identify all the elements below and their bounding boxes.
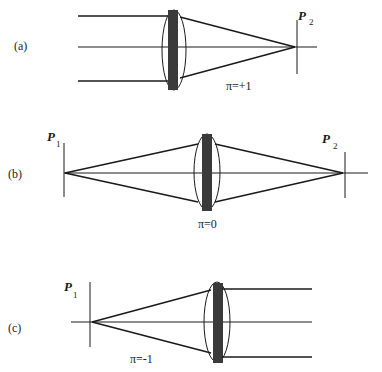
panel-label: (b)	[8, 167, 22, 181]
converging-ray-bottom	[215, 173, 343, 202]
diverging-ray-top	[65, 144, 198, 173]
plane-subscript: 1	[56, 139, 61, 149]
lens-bar	[168, 10, 178, 90]
panel-c: (c) π=-1 P 1	[8, 279, 312, 366]
pi-label: π=0	[198, 217, 217, 231]
plane-subscript: 2	[309, 17, 314, 27]
plane-subscript: 2	[333, 141, 338, 151]
panel-b: (b) π=0 P 1 P 2	[8, 129, 368, 231]
plane-subscript: 1	[73, 290, 78, 300]
diagram-canvas: (a) π=+1 P 2 (b) π=0 P 1 P 2 (c) π=-1 P …	[0, 0, 382, 372]
panel-a: (a) π=+1 P 2	[14, 8, 317, 93]
lens-bar	[213, 283, 223, 363]
panel-label: (a)	[14, 39, 27, 53]
panel-label: (c)	[8, 321, 21, 335]
diverging-ray-bottom	[65, 173, 198, 202]
diverging-ray-top	[92, 290, 211, 322]
diverging-ray-bottom	[92, 322, 211, 353]
plane-label: P	[322, 131, 331, 146]
plane-label: P	[64, 279, 73, 294]
converging-ray-top	[180, 17, 295, 47]
pi-label: π=-1	[130, 352, 153, 366]
lens-diagram: (a) π=+1 P 2 (b) π=0 P 1 P 2 (c) π=-1 P …	[0, 0, 382, 372]
pi-label: π=+1	[226, 79, 252, 93]
plane-label: P	[298, 8, 307, 23]
converging-ray-bottom	[180, 47, 295, 78]
lens-bar	[202, 134, 212, 211]
converging-ray-top	[215, 144, 343, 173]
plane-label: P	[47, 129, 56, 144]
